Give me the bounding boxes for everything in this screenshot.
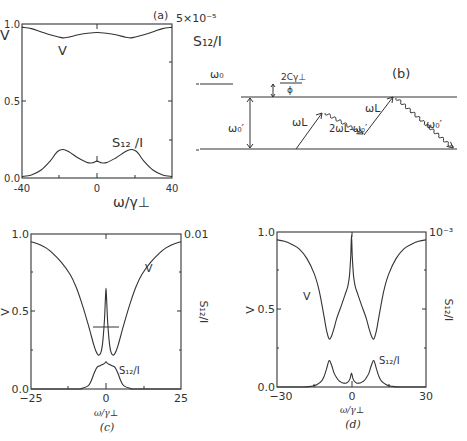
panel-c-right-axis-top-label: 0.01 <box>184 228 209 241</box>
panel-c-xtick-label: 0 <box>103 392 110 405</box>
emitted-photon-wavy-arrow <box>396 98 453 148</box>
shift-denominator: ϕ <box>287 85 293 95</box>
panel-c-right-axis-label: S₁₂/I <box>197 301 210 324</box>
four-wave-mixing-label: 2ωL-ω₀′ <box>329 123 368 134</box>
panel-b-level-diagram: (b) ω₀ 2Cγ⊥ ϕ ω₀′ ωL 2ωL-ω₀′ ωL <box>200 66 457 149</box>
panel-d-frame <box>277 232 426 387</box>
panel-d-xtick-label: −30 <box>269 390 292 403</box>
panel-a-right-axis-top-label: 5×10⁻⁵ <box>176 12 216 25</box>
panel-d-s-curve-label: S₁₂/I <box>379 355 400 366</box>
shift-numerator: 2Cγ⊥ <box>281 72 306 82</box>
panel-d-x-axis-label: ω/γ⊥ <box>340 405 364 415</box>
panel-a-s-curve-label: S₁₂ /I <box>112 135 143 150</box>
panel-c-ytick-label: 0.5 <box>12 305 30 318</box>
panel-a-right-axis-label: S₁₂/I <box>193 33 222 49</box>
panel-c-s-curve-label: S₁₂/I <box>119 365 140 376</box>
omega0-label: ω₀ <box>210 68 224 81</box>
omega0-prime-double-arrow <box>247 98 253 148</box>
laser-photon-label-2: ωL <box>365 102 381 115</box>
panel-d-y-axis-label: V <box>244 306 257 314</box>
panel-c-x-axis-label: ω/γ⊥ <box>94 408 118 418</box>
panel-d-xtick-label: 0 <box>349 390 356 403</box>
panel-a-ytick-label: 0.5 <box>4 96 20 107</box>
panel-a-frame <box>22 24 172 178</box>
panel-c-xtick-label: −25 <box>19 392 42 405</box>
omega0-prime-label: ω₀′ <box>228 122 245 135</box>
panel-c-ticks <box>31 234 181 389</box>
figure: (a) 5×10⁻⁵ S₁₂/I V 1.0 0.5 0.0 -40 0 40 … <box>0 0 467 441</box>
panel-d-ytick-label: 0.5 <box>258 303 276 316</box>
panel-a-s12-curve <box>22 149 172 176</box>
panel-c-xtick-label: 25 <box>174 392 188 405</box>
panel-d-v-curve-label: V <box>303 290 311 303</box>
panel-c-tag: (c) <box>100 421 115 434</box>
panel-c: 1.0 0.5 0.0 V −25 0 25 0.01 S₁₂/I ω/γ⊥ (… <box>0 228 210 434</box>
panel-c-v-curve <box>31 242 181 355</box>
panel-d-tag: (d) <box>345 418 361 431</box>
panel-d-right-axis-label: S₁₂/I <box>442 299 455 322</box>
panel-d-right-axis-top-label: 10⁻³ <box>429 226 453 239</box>
panel-a-xtick-label: -40 <box>14 183 30 194</box>
panel-a-tag: (a) <box>153 9 168 22</box>
panel-a-ticks <box>22 24 172 178</box>
panel-b-tag: (b) <box>392 66 410 81</box>
shift-arrow <box>271 84 275 97</box>
panel-a-xtick-label: 40 <box>166 183 179 194</box>
panel-d: 1.0 0.5 0.0 V −30 0 30 10⁻³ S₁₂/I ω/γ⊥ (… <box>244 226 455 431</box>
emitted-photon-label: ω₀′ <box>426 118 443 131</box>
panel-c-ytick-label: 1.0 <box>12 228 30 241</box>
panel-a-v-curve-label: V <box>58 43 67 58</box>
panel-a-ytick-label: 1.0 <box>4 19 20 30</box>
panel-c-frame <box>31 234 181 389</box>
panel-a: (a) 5×10⁻⁵ S₁₂/I V 1.0 0.5 0.0 -40 0 40 … <box>0 9 222 210</box>
panel-a-xtick-label: 0 <box>94 183 100 194</box>
panel-d-ticks <box>277 232 426 387</box>
panel-d-ytick-label: 1.0 <box>258 226 276 239</box>
panel-d-v-curve <box>277 235 426 339</box>
laser-photon-label-1: ωL <box>292 116 308 129</box>
panel-d-xtick-label: 30 <box>419 390 433 403</box>
panel-a-x-axis-label: ω/γ⊥ <box>113 194 150 210</box>
panel-c-y-axis-label: V <box>0 308 12 316</box>
